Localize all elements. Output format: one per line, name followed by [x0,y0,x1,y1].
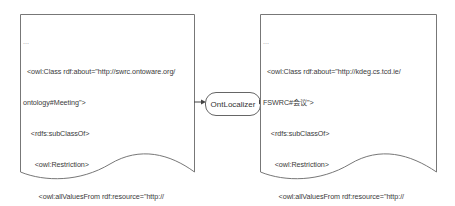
code-line: <rdfs:subClassOf> [263,129,404,139]
ontlocalizer-node: OntLocalizer [205,92,261,116]
code-line: <rdfs:subClassOf> [23,129,175,139]
ellipsis-top: ... [23,38,175,46]
source-code-block: ... <owl:Class rdf:about="http://swrc.on… [23,17,175,206]
code-line: <owl:Class rdf:about="http://kdeg.cs.tcd… [263,67,404,77]
code-line: <owl:allValuesFrom rdf:resource="http:// [23,192,175,202]
localized-owl-document: ... <owl:Class rdf:about="http://kdeg.cs… [260,14,437,192]
code-line: FSWRC#会议"> [263,98,404,108]
code-line: <owl:Class rdf:about="http://swrc.ontowa… [23,67,175,77]
code-line: <owl:allValuesFrom rdf:resource="http:// [263,192,404,202]
code-line: <owl:Restriction> [263,160,404,170]
source-owl-document: ... <owl:Class rdf:about="http://swrc.on… [20,14,195,192]
target-code-block: ... <owl:Class rdf:about="http://kdeg.cs… [263,17,404,206]
code-line: <owl:Restriction> [23,160,175,170]
code-line: ontology#Meeting"> [23,98,175,108]
ontlocalizer-label: OntLocalizer [211,100,256,109]
ellipsis-top: ... [263,38,404,46]
